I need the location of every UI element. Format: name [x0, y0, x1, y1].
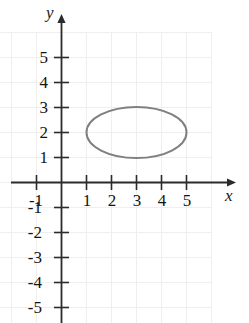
x-tick-label-2: 2 — [99, 192, 125, 209]
x-tick-label-4: 4 — [149, 192, 175, 209]
y-tick-label-5: 5 — [14, 49, 48, 66]
graph-figure: y x -1 1 2 3 4 5 5 4 3 2 1 -1 -2 -3 -4 -… — [0, 0, 249, 323]
y-tick-label-neg3: -3 — [8, 249, 42, 266]
y-axis-label: y — [46, 4, 54, 21]
x-axis — [11, 178, 236, 186]
x-tick-label-1: 1 — [74, 192, 100, 209]
y-tick-label-2: 2 — [14, 124, 48, 141]
x-tick-label-3: 3 — [124, 192, 150, 209]
y-tick-label-1: 1 — [14, 149, 48, 166]
y-tick-label-neg4: -4 — [8, 274, 42, 291]
y-tick-label-4: 4 — [14, 74, 48, 91]
y-axis — [57, 14, 65, 323]
y-tick-label-neg5: -5 — [8, 299, 42, 316]
x-tick-label-5: 5 — [174, 192, 200, 209]
y-tick-label-neg2: -2 — [8, 224, 42, 241]
y-tick-label-3: 3 — [14, 99, 48, 116]
y-tick-label-neg1: -1 — [8, 199, 42, 216]
x-axis-label: x — [225, 187, 233, 204]
